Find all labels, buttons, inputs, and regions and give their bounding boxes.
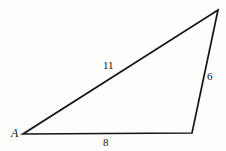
side-label-bc: 6 <box>207 71 213 82</box>
triangle-outline <box>0 0 226 151</box>
vertex-label-a: A <box>11 127 18 139</box>
side-label-ab: 8 <box>103 137 109 148</box>
side-label-ac: 11 <box>103 60 114 71</box>
triangle-shape <box>23 10 218 134</box>
triangle-figure: 11 6 8 A <box>0 0 226 151</box>
